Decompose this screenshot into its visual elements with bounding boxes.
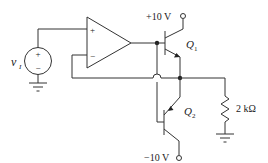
opamp-plus-sign: + bbox=[90, 25, 95, 35]
ground-icon bbox=[216, 134, 234, 142]
opamp: + − bbox=[87, 17, 131, 68]
wire-crossover bbox=[153, 74, 161, 78]
q2-label-main: Q bbox=[184, 105, 192, 117]
source-label: v I bbox=[11, 55, 22, 71]
supply-positive-label: +10 V bbox=[146, 11, 172, 22]
supply-negative-label: −10 V bbox=[144, 152, 170, 163]
q1-label-sub: 1 bbox=[194, 45, 198, 53]
q1-label-main: Q bbox=[186, 38, 194, 50]
q2-label-sub: 2 bbox=[192, 112, 196, 120]
transistor-q1 bbox=[165, 14, 186, 79]
source-label-main: v bbox=[11, 55, 17, 69]
opamp-minus-sign: − bbox=[90, 51, 95, 61]
wire-feedback bbox=[72, 55, 153, 78]
supply-terminal-negative bbox=[177, 156, 182, 161]
source-plus-sign: + bbox=[35, 49, 40, 59]
wire-output bbox=[180, 78, 225, 96]
source-label-sub: I bbox=[18, 63, 22, 71]
resistor-icon bbox=[221, 96, 229, 134]
ground-icon bbox=[29, 83, 47, 91]
transistor-q2 bbox=[164, 78, 182, 161]
load-label: 2 kΩ bbox=[236, 103, 256, 114]
supply-terminal-positive bbox=[181, 14, 186, 19]
source-minus-sign: − bbox=[35, 63, 40, 73]
circuit-diagram: + − v I + − +10 V Q 1 bbox=[0, 0, 268, 163]
voltage-source: + − bbox=[25, 29, 52, 83]
